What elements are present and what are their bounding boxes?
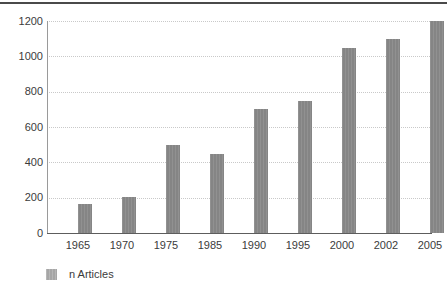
x-tick-label-1990: 1990 (232, 239, 276, 251)
bar-2005[interactable] (430, 21, 444, 233)
x-tick-label-1995: 1995 (276, 239, 320, 251)
y-tick-label: 800 (1, 86, 43, 97)
x-tick-label-2002: 2002 (364, 239, 408, 251)
top-divider-rule (0, 2, 447, 4)
bar-2002[interactable] (386, 39, 400, 233)
bar-1975[interactable] (166, 145, 180, 233)
bar-1995[interactable] (298, 101, 312, 234)
bar-chart-figure: 1200 1000 800 600 400 200 0 1965 1970 19… (0, 0, 447, 294)
chart-legend: n Articles (46, 269, 114, 280)
bars-layer (47, 21, 432, 233)
bar-1990[interactable] (254, 109, 268, 233)
y-tick-label: 1200 (1, 16, 43, 27)
bar-1985[interactable] (210, 154, 224, 234)
y-tick-label: 600 (1, 122, 43, 133)
y-tick-label: 400 (1, 157, 43, 168)
x-tick-label-2005: 2005 (408, 239, 447, 251)
legend-label-n-articles: n Articles (69, 269, 114, 280)
x-tick-label-1975: 1975 (144, 239, 188, 251)
bar-1965[interactable] (78, 204, 92, 233)
y-tick-label: 1000 (1, 51, 43, 62)
x-axis-line (47, 233, 432, 234)
legend-swatch-n-articles (46, 269, 57, 280)
x-tick-label-1965: 1965 (56, 239, 100, 251)
y-tick-label: 200 (1, 192, 43, 203)
x-tick-label-1970: 1970 (100, 239, 144, 251)
y-axis-tick-labels: 1200 1000 800 600 400 200 0 (0, 0, 43, 294)
x-tick-label-1985: 1985 (188, 239, 232, 251)
y-tick-label: 0 (1, 228, 43, 239)
bar-2000[interactable] (342, 48, 356, 234)
x-tick-label-2000: 2000 (320, 239, 364, 251)
bar-1970[interactable] (122, 197, 136, 233)
